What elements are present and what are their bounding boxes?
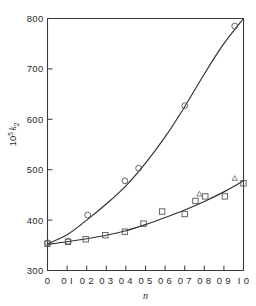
y-tick-label: 300 — [27, 265, 44, 276]
x-tick-label: 0 — [45, 275, 51, 286]
x-tick-label: 0 7 — [178, 275, 192, 286]
x-axis-title-text: n — [143, 290, 148, 301]
x-axis-title: n — [143, 290, 148, 301]
y-tick-label: 800 — [27, 13, 44, 24]
chart-figure: 300400500600700800 00 I0 20 30 40 50 60 … — [0, 0, 256, 306]
y-tick-label: 400 — [27, 215, 44, 226]
chart-canvas: 300400500600700800 00 I0 20 30 40 50 60 … — [0, 0, 256, 306]
x-tick-label: 0 4 — [119, 275, 133, 286]
x-tick-label: 0 6 — [158, 275, 172, 286]
y-tick-label: 500 — [27, 164, 44, 175]
x-tick-label: 0 9 — [217, 275, 231, 286]
x-tick-label: 0 2 — [80, 275, 94, 286]
chart-background — [0, 0, 256, 306]
x-tick-label: I 0 — [238, 275, 249, 286]
x-tick-label: 0 5 — [138, 275, 152, 286]
y-tick-label: 700 — [27, 63, 44, 74]
x-tick-label: 0 I — [61, 275, 72, 286]
y-tick-label: 600 — [27, 114, 44, 125]
x-tick-label: 0 3 — [99, 275, 113, 286]
x-tick-label: 0 8 — [197, 275, 211, 286]
